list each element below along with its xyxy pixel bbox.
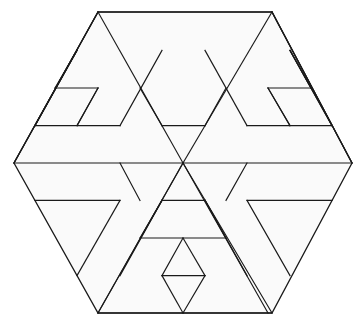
hexagon-triangular-grid-pattern: Regular hexagon subdivided by a triangul… [0,0,362,322]
figure-canvas: Regular hexagon subdivided by a triangul… [0,0,362,322]
